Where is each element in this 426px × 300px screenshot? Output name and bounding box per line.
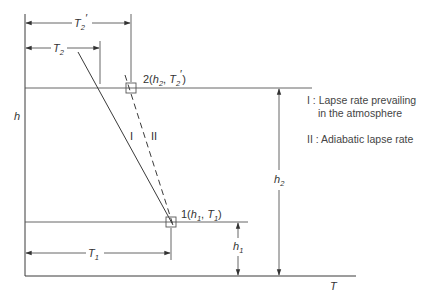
point-2-label: 2(h2, T2′) — [143, 68, 186, 88]
h1-label: h1 — [233, 240, 243, 255]
t2-prime-label: T2′ — [74, 12, 88, 32]
dimension-h1: h1 — [233, 223, 243, 275]
t2-label: T2 — [53, 42, 65, 57]
line-I-label: I — [130, 130, 133, 142]
legend-item-II: II : Adiabatic lapse rate — [307, 133, 413, 145]
h2-label: h2 — [274, 173, 285, 188]
horizontal-axis-label: T — [330, 280, 338, 292]
dimension-t2-prime: T2′ — [26, 12, 130, 32]
dimension-t1: T1 — [26, 247, 170, 262]
dimension-t2: T2 — [26, 42, 99, 57]
legend-item-I-line1: I : Lapse rate prevailing — [307, 94, 416, 106]
dimension-h2: h2 — [274, 89, 285, 275]
t1-label: T1 — [88, 247, 99, 262]
point-1-label: 1(h1, T1) — [181, 208, 222, 223]
lapse-rate-diagram: T2′ T2 T1 h1 h2 I II 2(h2, T2′) 1(h1, T1… — [0, 0, 426, 300]
legend: I : Lapse rate prevailing in the atmosph… — [307, 94, 416, 145]
legend-item-I-line2: in the atmosphere — [318, 107, 402, 119]
vertical-axis-label: h — [14, 110, 20, 122]
line-II-label: II — [151, 130, 157, 142]
axes — [25, 14, 356, 276]
